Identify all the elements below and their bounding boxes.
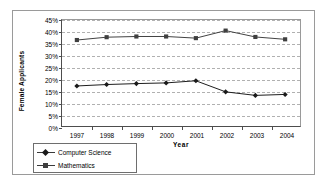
chart-legend: Computer Science Mathematics xyxy=(33,143,137,173)
data-point[interactable] xyxy=(223,89,228,94)
data-point[interactable] xyxy=(164,34,168,38)
y-axis-tick-label: 30% xyxy=(45,53,58,60)
x-axis-tick-mark xyxy=(92,126,93,130)
series-layer xyxy=(62,20,300,126)
legend-item-mathematics[interactable]: Mathematics xyxy=(37,159,133,172)
y-axis-tick-label: 20% xyxy=(45,77,58,84)
x-axis-tick-label: 1998 xyxy=(100,132,114,139)
y-axis-tick-mark xyxy=(59,128,62,129)
data-point[interactable] xyxy=(194,36,198,40)
series-line-computer-science xyxy=(77,81,285,96)
y-axis-title: Female Applicants xyxy=(18,36,30,126)
x-axis-tick-label: 2004 xyxy=(280,132,294,139)
chart-frame: Female Applicants 0%5%10%15%20%25%30%35%… xyxy=(12,10,315,175)
x-axis-tick-label: 1999 xyxy=(130,132,144,139)
legend-item-computer-science[interactable]: Computer Science xyxy=(37,146,133,159)
data-point[interactable] xyxy=(283,37,287,41)
plot-area: 0%5%10%15%20%25%30%35%40%45% 19971998199… xyxy=(61,19,301,127)
legend-label-computer-science: Computer Science xyxy=(58,149,111,156)
data-point[interactable] xyxy=(164,80,169,85)
data-point[interactable] xyxy=(283,92,288,97)
y-axis-tick-label: 5% xyxy=(49,113,58,120)
data-point[interactable] xyxy=(193,78,198,83)
x-axis-tick-mark xyxy=(122,126,123,130)
x-axis-tick-mark xyxy=(242,126,243,130)
x-axis-tick-label: 2000 xyxy=(160,132,174,139)
x-axis-tick-label: 2001 xyxy=(190,132,204,139)
x-axis-tick-mark xyxy=(212,126,213,130)
y-axis-tick-label: 15% xyxy=(45,89,58,96)
y-axis-tick-label: 35% xyxy=(45,41,58,48)
x-axis-tick-mark xyxy=(182,126,183,130)
data-point[interactable] xyxy=(253,93,258,98)
x-axis-tick-label: 2002 xyxy=(220,132,234,139)
y-axis-tick-label: 25% xyxy=(45,65,58,72)
data-point[interactable] xyxy=(134,34,138,38)
y-axis-tick-label: 40% xyxy=(45,29,58,36)
y-axis-tick-label: 45% xyxy=(45,17,58,24)
data-point[interactable] xyxy=(75,38,79,42)
x-axis-tick-mark xyxy=(152,126,153,130)
x-axis-tick-label: 2003 xyxy=(250,132,264,139)
square-marker-icon xyxy=(37,161,55,171)
x-axis-tick-label: 1997 xyxy=(70,132,84,139)
data-point[interactable] xyxy=(134,81,139,86)
data-point[interactable] xyxy=(104,82,109,87)
y-axis-tick-label: 0% xyxy=(49,125,58,132)
y-axis-tick-label: 10% xyxy=(45,101,58,108)
data-point[interactable] xyxy=(105,35,109,39)
data-point[interactable] xyxy=(74,83,79,88)
x-axis-tick-mark xyxy=(272,126,273,130)
legend-label-mathematics: Mathematics xyxy=(58,162,95,169)
data-point[interactable] xyxy=(253,35,257,39)
data-point[interactable] xyxy=(224,29,228,33)
diamond-marker-icon xyxy=(37,148,55,158)
